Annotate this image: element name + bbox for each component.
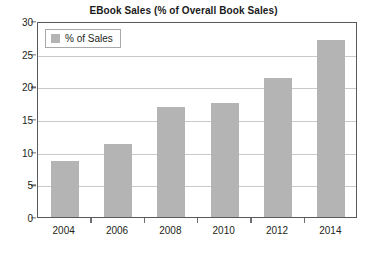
y-axis-tick-label: 10 [7,147,33,158]
x-axis-tick-label: 2006 [106,225,128,236]
y-axis-tick-label: 20 [7,82,33,93]
ebook-sales-bar-chart: EBook Sales (% of Overall Book Sales) 05… [0,0,367,261]
bar-2014 [317,40,345,217]
x-axis-tick-label: 2008 [159,225,181,236]
x-axis-tick-label: 2010 [213,225,235,236]
legend-swatch-icon [51,34,60,43]
y-axis-labels: 051015202530 [3,22,33,218]
bar-2010 [211,103,239,217]
x-axis-labels: 200420062008201020122014 [37,225,357,241]
chart-legend: % of Sales [45,29,121,48]
x-axis-tick-mark [197,218,198,223]
legend-label: % of Sales [65,33,113,44]
bar-2012 [264,78,292,217]
x-axis-tick-marks [37,218,357,224]
y-axis-tick-label: 5 [7,180,33,191]
bars-layer [38,23,356,217]
x-axis-tick-label: 2012 [266,225,288,236]
x-axis-tick-label: 2004 [53,225,75,236]
y-axis-tick-label: 0 [7,213,33,224]
y-axis-tick-label: 25 [7,49,33,60]
bar-2008 [157,107,185,217]
x-axis-tick-label: 2014 [319,225,341,236]
y-axis-tick-label: 15 [7,115,33,126]
bar-2004 [51,161,79,217]
y-axis-tick-label: 30 [7,17,33,28]
x-axis-tick-mark [144,218,145,223]
chart-title: EBook Sales (% of Overall Book Sales) [0,5,367,16]
bar-2006 [104,144,132,217]
x-axis-tick-mark [250,218,251,223]
x-axis-tick-mark [90,218,91,223]
x-axis-tick-mark [304,218,305,223]
plot-area: % of Sales [37,22,357,218]
